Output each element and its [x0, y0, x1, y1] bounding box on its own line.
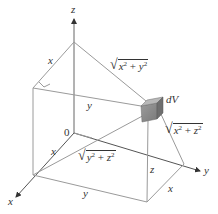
sqrt-x2-y2-label: √ x2 + y2: [110, 58, 148, 72]
volume-element-diagram: z x y 0 dV x y x y z x √ x2 + y2 √ y2 + …: [0, 0, 218, 214]
sqrt-x2-z2-label: √ x2 + z2: [165, 122, 203, 136]
x-axis: [16, 133, 74, 197]
right-x-label: x: [168, 183, 173, 194]
upper-y-label: y: [87, 100, 92, 111]
bottom-y-label: y: [83, 188, 88, 199]
lower-x-label: x: [51, 146, 56, 157]
diagram-canvas: [0, 0, 218, 214]
right-angle-marker: [39, 82, 50, 87]
edge-bottom-y: [33, 175, 147, 202]
sqrt-y2-z2-label: √ y2 + z2: [78, 149, 116, 163]
vertical-z-label: z: [150, 164, 154, 175]
volume-element-box: [141, 97, 163, 122]
edge-vertical-z: [147, 120, 148, 202]
origin-label: 0: [64, 127, 70, 138]
radical-sign-icon: √: [110, 58, 118, 73]
y-axis-label: y: [204, 165, 209, 176]
x-axis-label: x: [8, 196, 13, 207]
z-axis-label: z: [71, 4, 75, 15]
dv-label: dV: [166, 94, 178, 105]
top-left-x-label: x: [48, 55, 53, 66]
radical-sign-icon: √: [165, 122, 173, 137]
edge-sqrt-y2-z2: [33, 113, 148, 175]
edge-top-left-x: [33, 42, 74, 88]
edge-origin-to-box: [74, 133, 92, 138]
radical-sign-icon: √: [78, 149, 86, 164]
